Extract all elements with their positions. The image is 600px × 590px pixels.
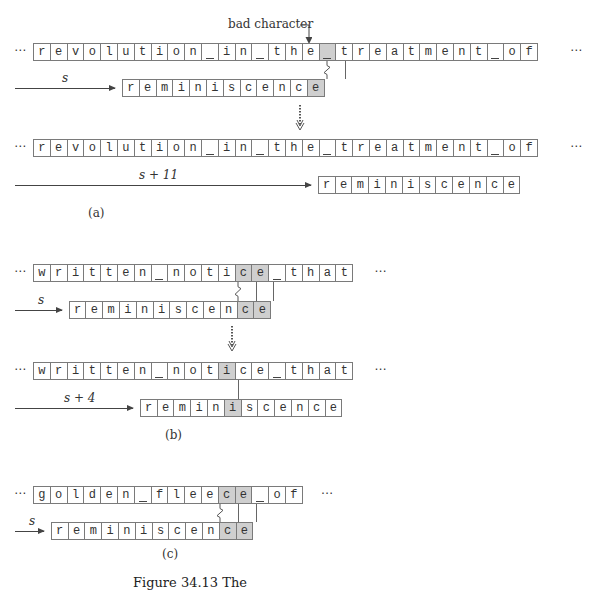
char-cell: n [469,176,487,194]
char-cell: t [470,139,488,157]
space-underscore [155,279,163,280]
char-cell: e [369,43,387,61]
char-cell: e [85,301,103,319]
char-cell: i [67,362,85,380]
char-cell: e [100,486,118,504]
char-cell: e [274,399,292,417]
char-cell: e [302,43,320,61]
char-cell [268,362,286,380]
char-cell: e [50,139,68,157]
char-cell: c [486,176,504,194]
space-underscore [256,501,264,502]
char-cell: c [168,522,186,540]
b-before-pattern-row: reminiscence [69,301,272,319]
mismatch-zigzag-icon [213,504,227,522]
char-cell: n [220,301,238,319]
char-cell: r [318,176,336,194]
char-cell: n [273,79,291,97]
char-cell: v [67,139,85,157]
char-cell [268,264,286,282]
char-cell: c [237,301,255,319]
char-cell: i [224,399,242,417]
space-underscore [139,501,147,502]
char-cell: c [235,362,253,380]
char-cell: e [157,399,175,417]
char-cell: n [235,43,253,61]
char-cell: f [520,139,538,157]
char-cell: e [251,362,269,380]
a-before-shift-label: s [62,71,68,85]
char-cell: u [117,43,135,61]
char-cell: e [251,264,269,282]
space-underscore [323,58,331,59]
char-cell: w [33,264,51,282]
a-before-pattern-row: reminiscence [122,79,325,97]
char-cell: s [241,399,259,417]
char-cell: t [201,264,219,282]
char-cell: t [83,264,101,282]
match-connector [256,282,257,301]
char-cell: c [235,264,253,282]
a-after-leading-ellipsis: ⋯ [14,137,26,155]
char-cell [151,264,169,282]
char-cell: u [117,139,135,157]
match-connector [256,504,257,522]
char-cell: e [503,176,521,194]
char-cell: i [67,264,85,282]
char-cell: w [33,362,51,380]
char-cell: a [386,139,404,157]
char-cell: f [285,486,303,504]
char-cell: o [83,139,101,157]
char-cell: e [50,43,68,61]
match-connector [273,282,274,301]
c-before-shift-label: s [29,514,35,528]
char-cell: e [236,522,254,540]
char-cell: i [153,301,171,319]
char-cell: i [135,522,153,540]
char-cell: r [33,43,51,61]
char-cell: e [139,79,157,97]
char-cell: t [335,362,353,380]
b-before-trailing-ellipsis: ⋯ [374,262,386,280]
char-cell: c [290,79,308,97]
char-cell: g [33,486,51,504]
char-cell: n [385,176,403,194]
char-cell: e [253,301,271,319]
char-cell: v [67,43,85,61]
char-cell: n [136,301,154,319]
char-cell: n [202,522,220,540]
char-cell: e [256,79,274,97]
char-cell: e [184,486,202,504]
char-cell: e [235,486,253,504]
panel-c-label: (c) [162,547,178,561]
char-cell: m [84,522,102,540]
char-cell: e [201,486,219,504]
b-before-after-pattern-row: reminiscence [140,399,343,417]
space-underscore [155,377,163,378]
char-cell [251,486,269,504]
char-cell: e [117,264,135,282]
char-cell: t [83,362,101,380]
a-before-arrow [15,88,115,89]
b-before-after-shift-label: s + 4 [64,391,95,405]
char-cell: t [285,362,303,380]
mismatch-zigzag-icon [231,282,245,301]
char-cell: c [308,399,326,417]
char-cell: e [307,79,325,97]
char-cell: t [403,139,421,157]
char-cell: r [51,522,69,540]
a-after-shift-label: s + 11 [139,168,178,182]
char-cell: a [319,264,337,282]
char-cell: t [100,264,118,282]
char-cell: n [207,399,225,417]
char-cell: t [403,43,421,61]
char-cell [319,139,337,157]
char-cell: c [218,486,236,504]
char-cell: i [101,522,119,540]
char-cell: f [520,43,538,61]
char-cell [251,43,269,61]
char-cell: s [152,522,170,540]
char-cell: m [351,176,369,194]
char-cell: f [151,486,169,504]
char-cell: h [302,362,320,380]
